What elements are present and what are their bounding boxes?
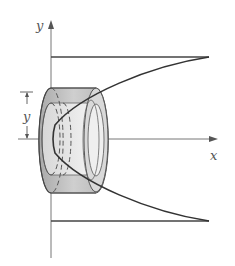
dimension-arrow-up-icon <box>25 92 29 97</box>
x-axis-arrow-icon <box>209 136 218 142</box>
radius-label: y <box>22 109 31 124</box>
diagram-canvas: y x y <box>0 0 235 266</box>
y-axis-label: y <box>35 18 44 33</box>
shell-method-diagram: y x y <box>0 0 235 266</box>
cylindrical-shell <box>39 88 108 193</box>
y-axis-arrow-icon <box>48 20 54 29</box>
x-axis-label: x <box>210 148 218 163</box>
radius-dimension: y <box>20 92 33 139</box>
dimension-arrow-down-icon <box>25 134 29 139</box>
